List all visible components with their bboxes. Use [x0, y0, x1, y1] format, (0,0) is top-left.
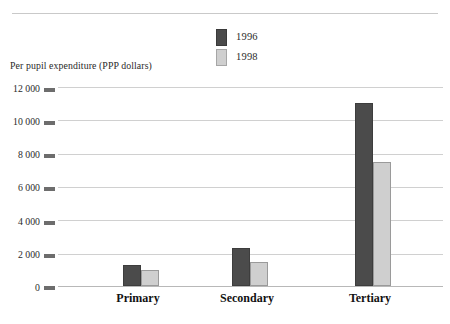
legend-label-1998: 1998: [236, 52, 258, 63]
light-square-swatch-icon: [216, 49, 227, 66]
y-tick-mark-8000: [44, 154, 55, 158]
y-axis-title: Per pupil expenditure (PPP dollars): [10, 60, 152, 71]
y-tick-mark-10000: [44, 121, 55, 125]
category-label-tertiary: Tertiary: [325, 292, 415, 304]
gridline-baseline-0: [58, 286, 443, 287]
plot-area: [58, 87, 443, 287]
chart-legend: 1996 1998: [216, 27, 336, 67]
y-tick-label-4000: 4 000: [0, 217, 40, 227]
bar-tertiary-1996: [355, 103, 373, 286]
legend-label-1996: 1996: [236, 32, 258, 43]
bar-primary-1998: [141, 270, 159, 286]
category-label-primary: Primary: [93, 292, 183, 304]
bar-secondary-1998: [250, 262, 268, 286]
legend-item-1996: 1996: [216, 27, 336, 47]
category-label-secondary: Secondary: [198, 292, 296, 304]
y-tick-mark-6000: [44, 187, 55, 191]
bar-tertiary-1998: [373, 162, 391, 286]
y-tick-mark-12000: [44, 88, 55, 92]
bar-primary-1996: [123, 265, 141, 286]
gridline-10000: [58, 120, 443, 121]
gridline-12000: [58, 87, 443, 88]
bar-secondary-1996: [232, 248, 250, 286]
y-tick-label-6000: 6 000: [0, 183, 40, 193]
bar-chart: 1996 1998 Per pupil expenditure (PPP dol…: [0, 0, 450, 324]
top-divider-rule: [12, 13, 438, 14]
y-tick-label-12000: 12 000: [0, 84, 40, 94]
y-tick-mark-4000: [44, 221, 55, 225]
legend-item-1998: 1998: [216, 47, 336, 67]
y-tick-label-2000: 2 000: [0, 250, 40, 260]
y-tick-label-0: 0: [0, 283, 40, 293]
y-tick-label-8000: 8 000: [0, 150, 40, 160]
y-tick-label-10000: 10 000: [0, 117, 40, 127]
y-tick-mark-2000: [44, 254, 55, 258]
dark-square-swatch-icon: [216, 29, 227, 46]
gridline-8000: [58, 154, 443, 155]
y-tick-mark-0: [44, 286, 55, 290]
